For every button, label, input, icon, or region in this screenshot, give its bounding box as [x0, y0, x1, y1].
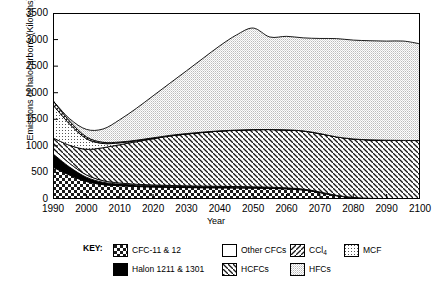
x-tick-label: 2000	[66, 203, 106, 214]
area-series	[53, 28, 420, 143]
legend-item[interactable]: CFC-11 & 12	[113, 244, 181, 257]
y-tick-label: 500	[12, 166, 48, 177]
x-tick-label: 2090	[367, 203, 407, 214]
legend-label: MCF	[363, 245, 381, 256]
x-tick-label: 2020	[133, 203, 173, 214]
x-tick-label: 2050	[233, 203, 273, 214]
x-tick-label: 2030	[166, 203, 206, 214]
legend-label: CCl4	[309, 245, 327, 256]
y-tick-label: 0	[12, 193, 48, 204]
legend-item[interactable]: HFCs	[290, 263, 331, 276]
legend-swatch-icon	[290, 263, 305, 276]
plot-area	[53, 13, 420, 199]
stacked-area-svg	[53, 13, 420, 199]
legend-label: HFCs	[309, 264, 331, 275]
legend-swatch-icon	[290, 244, 305, 257]
legend-key-label: KEY:	[83, 243, 103, 253]
legend-swatch-icon	[113, 263, 128, 276]
x-tick-label: 2040	[200, 203, 240, 214]
legend-item[interactable]: Halon 1211 & 1301	[113, 263, 204, 276]
legend-label: CFC-11 & 12	[132, 245, 181, 256]
legend-item[interactable]: HCFCs	[222, 263, 269, 276]
x-tick-label: 2080	[333, 203, 373, 214]
legend-label-subscript: 4	[323, 249, 327, 256]
x-tick-label: 1990	[33, 203, 73, 214]
legend-row-1: KEY:	[0, 242, 432, 261]
legend-swatch-icon	[222, 263, 237, 276]
legend-swatch-icon	[113, 244, 128, 257]
legend-label: Halon 1211 & 1301	[132, 264, 204, 275]
legend-item[interactable]: Other CFCs	[222, 244, 286, 257]
legend-row-2: Halon 1211 & 1301	[0, 261, 432, 280]
y-axis-title: Emissions of halocarbons (Kilotons)	[25, 0, 35, 159]
x-tick-label: 2010	[100, 203, 140, 214]
legend-swatch-icon	[222, 244, 237, 257]
chart-container: Emissions of halocarbons (Kilotons) 0500…	[0, 0, 432, 287]
legend-label: Other CFCs	[241, 245, 286, 256]
x-tick-label: 2060	[267, 203, 307, 214]
x-tick-label: 2100	[400, 203, 432, 214]
legend-item[interactable]: MCF	[344, 244, 381, 257]
x-axis-title: Year	[186, 216, 246, 226]
chart-legend: KEY:	[0, 242, 432, 280]
legend-swatch-icon	[344, 244, 359, 257]
legend-item[interactable]: CCl4	[290, 244, 327, 257]
legend-label: HCFCs	[241, 264, 269, 275]
x-tick-label: 2070	[300, 203, 340, 214]
